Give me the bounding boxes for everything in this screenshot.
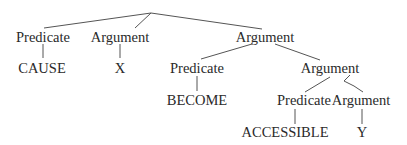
node-predicate-3: Predicate (277, 93, 331, 108)
node-argument-4: Argument (332, 93, 391, 108)
node-y: Y (357, 125, 367, 140)
node-argument-3: Argument (301, 61, 360, 76)
edge-argument-argument-2b (344, 81, 354, 86)
edge-root-predicate (44, 13, 151, 28)
edge-argument-predicate-2 (305, 77, 330, 92)
node-argument-1: Argument (91, 30, 150, 45)
edge-root-argument-main (151, 13, 262, 29)
edge-argument-argument (275, 44, 320, 60)
node-accessible: ACCESSIBLE (241, 125, 328, 140)
node-become: BECOME (167, 93, 227, 108)
node-predicate-1: Predicate (16, 30, 70, 45)
node-predicate-2: Predicate (170, 61, 224, 76)
syntax-tree-diagram: Predicate Argument Argument CAUSE X Pred… (0, 0, 407, 145)
node-cause: CAUSE (18, 61, 66, 76)
edge-argument-predicate (201, 44, 252, 59)
node-x: X (115, 61, 125, 76)
edge-argument-argument-2a (344, 75, 350, 81)
node-argument-2: Argument (236, 30, 295, 45)
